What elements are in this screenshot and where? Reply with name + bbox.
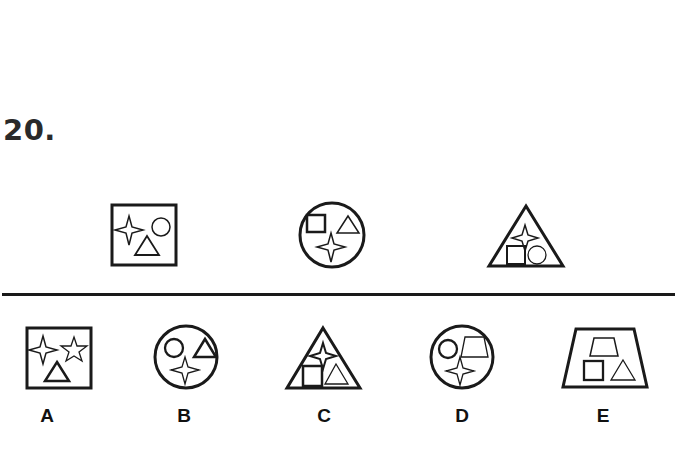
triangle-shape (45, 362, 69, 381)
square-shape (307, 215, 325, 232)
four-point-star-icon (446, 357, 474, 385)
option-c-figure[interactable] (285, 326, 363, 390)
four-point-star-icon (29, 336, 57, 364)
four-point-star-icon (115, 216, 143, 245)
five-point-star-icon (61, 337, 87, 361)
trapezoid-shape (461, 337, 488, 357)
triangle-shape (337, 216, 359, 233)
square-shape (507, 246, 525, 264)
option-c-label[interactable]: C (314, 405, 334, 427)
option-a-label[interactable]: A (37, 405, 57, 427)
four-point-star-icon (171, 357, 199, 384)
circle-shape (528, 246, 546, 264)
triangle-shape (611, 360, 635, 380)
option-e-figure[interactable] (561, 327, 649, 389)
option-e-label[interactable]: E (593, 405, 613, 427)
divider-line (2, 293, 675, 296)
option-b-label[interactable]: B (174, 405, 194, 427)
triangle-shape (325, 364, 348, 384)
square-shape (584, 361, 603, 380)
trapezoid-shape (590, 338, 618, 356)
option-d-figure[interactable] (428, 322, 498, 392)
square-shape (303, 366, 322, 386)
option-d-label[interactable]: D (452, 405, 472, 427)
option-a-figure[interactable] (25, 326, 93, 390)
example-figure-3 (487, 204, 565, 268)
circle-shape (152, 218, 170, 236)
option-b-figure[interactable] (153, 322, 223, 392)
triangle-shape (135, 236, 159, 255)
circle-shape (439, 340, 457, 358)
outer-triangle-shape (287, 328, 360, 388)
example-figure-1 (110, 203, 178, 267)
circle-shape (165, 339, 183, 357)
four-point-star-icon (317, 233, 345, 262)
example-figure-2 (297, 200, 367, 270)
question-number: 20. (3, 113, 56, 147)
